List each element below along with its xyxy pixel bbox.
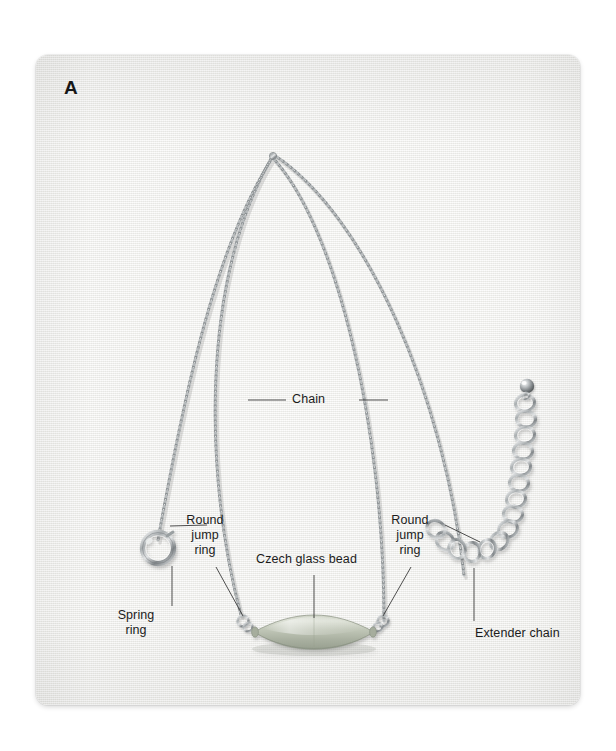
callout-label-chain: Chain bbox=[292, 392, 325, 407]
czech-glass-bead bbox=[252, 615, 377, 656]
callout-label-extender-chain: Extender chain bbox=[475, 626, 560, 641]
extender-chain bbox=[424, 394, 537, 576]
callout-label-round-jump-ring-left: Round jump ring bbox=[176, 513, 234, 557]
leader-jump-left-lower bbox=[216, 567, 243, 616]
jump-ring-left bbox=[238, 616, 253, 632]
callout-label-czech-glass-bead: Czech glass bead bbox=[256, 552, 357, 567]
figure-stage: A Chain Round jump ring Czech glass bead… bbox=[0, 0, 616, 751]
callout-label-spring-ring: Spring ring bbox=[108, 608, 164, 638]
chain-crossing-point bbox=[269, 152, 276, 159]
callout-label-round-jump-ring-right: Round jump ring bbox=[381, 513, 439, 557]
panel-letter: A bbox=[64, 78, 78, 97]
